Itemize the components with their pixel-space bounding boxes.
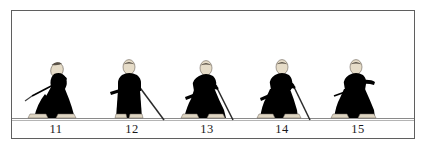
hakama-14 <box>260 89 298 118</box>
foot-rear-15 <box>331 114 349 118</box>
head-13 <box>200 61 212 76</box>
foot-rear-13 <box>181 114 199 118</box>
foot-front-15 <box>358 114 376 118</box>
foot-front-11 <box>56 114 76 118</box>
foot-front-13 <box>207 114 225 118</box>
foot-front-14 <box>283 114 301 118</box>
figure-plate: 11 12 <box>0 0 428 147</box>
head-14 <box>276 60 288 75</box>
figure-caption-15: 15 <box>312 122 404 136</box>
head-12 <box>123 60 135 75</box>
figure-15: 15 <box>312 0 404 147</box>
foot-rear-14 <box>257 114 275 118</box>
foot-rear-11 <box>28 114 48 118</box>
foot-rear-12 <box>115 114 127 118</box>
head-15 <box>350 60 362 75</box>
foot-front-12 <box>129 114 143 118</box>
